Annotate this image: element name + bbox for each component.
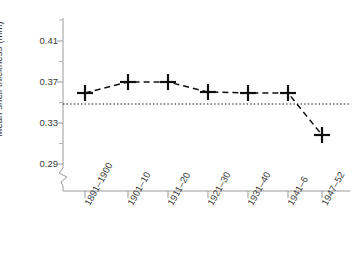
data-point-marker [280,85,296,101]
plot-area [0,0,359,268]
data-point-marker [200,84,216,100]
chart-figure: Mean shell thickness (mm) 0.41 0.37 0.33… [0,0,359,268]
data-point-marker [77,85,93,101]
data-point-marker [314,127,330,143]
data-line [85,82,322,135]
data-markers [77,74,330,143]
data-point-marker [160,74,176,90]
data-point-marker [240,85,256,101]
data-point-marker [120,74,136,90]
